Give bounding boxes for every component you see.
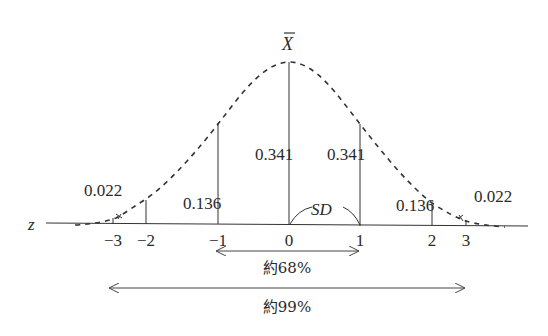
sd-label: SD bbox=[311, 200, 333, 219]
area-minus3-minus2-label: 0.022 bbox=[84, 181, 122, 200]
area-0-1-label: 0.341 bbox=[327, 145, 365, 164]
area-labels: 0.0220.1360.3410.3410.1360.022 bbox=[84, 145, 512, 215]
range-annotations: 約68%約99% bbox=[109, 251, 465, 316]
range-68-label: 約68% bbox=[263, 259, 311, 277]
tick-label: −1 bbox=[209, 231, 227, 250]
area-1-2-label: 0.136 bbox=[396, 196, 434, 215]
area-2-3-label: 0.022 bbox=[474, 187, 512, 206]
area-minus2-minus1-label: 0.136 bbox=[183, 194, 221, 213]
tick-label: 3 bbox=[462, 231, 471, 250]
tick-label: −3 bbox=[104, 231, 122, 250]
mean-label: X bbox=[281, 34, 294, 54]
sd-arc-left bbox=[290, 207, 312, 224]
pointer-right-tail bbox=[458, 215, 463, 221]
tick-label: 1 bbox=[356, 231, 365, 250]
tick-label: −2 bbox=[137, 231, 155, 250]
normal-distribution-diagram: z SD X 0.0220.1360.3410.3410.1360.022 −3… bbox=[0, 0, 548, 336]
sd-arc-right bbox=[343, 207, 360, 225]
area-minus1-0-label: 0.341 bbox=[255, 145, 293, 164]
z-axis-label: z bbox=[27, 215, 35, 234]
tick-label: 0 bbox=[285, 231, 294, 250]
range-99-label: 約99% bbox=[263, 298, 311, 316]
z-axis bbox=[46, 223, 528, 226]
tick-label: 2 bbox=[428, 231, 437, 250]
tick-labels: −3−2−10123 bbox=[104, 231, 470, 250]
